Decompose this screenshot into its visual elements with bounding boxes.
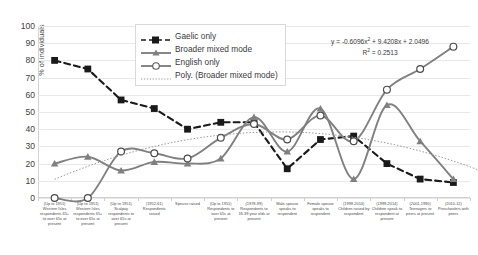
x-axis-labels: (Up to 1951) Western Isles respondents 6… <box>38 201 470 251</box>
equation-lead: y = -0.6096x <box>331 38 367 45</box>
data-point-gaelic-only <box>151 105 158 112</box>
x-axis-category-label: (1978-99) Respondents to 18-39 year olds… <box>238 201 271 221</box>
r-squared: R2 = 0.2513 <box>300 46 460 57</box>
data-point-english-only <box>350 138 357 145</box>
y-axis-tick-label: 40 <box>25 124 35 134</box>
data-point-gaelic-only <box>184 126 191 133</box>
data-point-english-only <box>417 66 424 73</box>
data-point-english-only <box>251 121 258 128</box>
x-axis-category-label: (Up to 1951) Western Isles respondents 6… <box>71 201 104 226</box>
chart-legend: Gaelic only Broader mixed mode English o… <box>135 24 286 86</box>
x-axis-category-label: (Up to 1951) Respondents to over 65s at … <box>204 201 237 221</box>
x-axis-category-label: (2001-1990) Teenagers to peers at presen… <box>404 201 437 216</box>
legend-label-poly-trendline: Poly. (Broader mixed mode) <box>175 70 278 80</box>
gridline <box>38 198 470 199</box>
legend-item-poly-trendline: Poly. (Broader mixed mode) <box>141 68 278 81</box>
x-axis-category-label: (1952-61) Respondents raised <box>138 201 171 216</box>
x-axis-category-label: (Up to 1951) Scalpay respondents to over… <box>105 201 138 226</box>
x-axis-category-label: Female spouse speaks to respondent <box>304 201 337 216</box>
data-point-gaelic-only <box>384 160 391 167</box>
x-axis-category-label: Spouse raised <box>171 201 204 206</box>
legend-label-gaelic-only: Gaelic only <box>175 31 216 41</box>
legend-key-broader-mixed-mode <box>141 44 171 54</box>
x-axis-tickmark <box>470 198 471 201</box>
y-axis-tick-label: 30 <box>25 141 35 151</box>
y-axis-tick-label: 0 <box>30 193 35 203</box>
legend-label-english-only: English only <box>175 57 220 67</box>
x-axis-category-label: (Up to 1951) Western Isles respondents 6… <box>38 201 71 226</box>
legend-key-english-only <box>141 57 171 67</box>
data-point-english-only <box>151 150 158 157</box>
equation-tail: + 9.4208x + 2.0496 <box>370 38 429 45</box>
data-point-gaelic-only <box>217 119 224 126</box>
y-axis-tick-label: 80 <box>25 55 35 65</box>
y-axis-tick-label: 70 <box>25 73 35 83</box>
data-point-english-only <box>384 86 391 93</box>
data-point-gaelic-only <box>84 66 91 73</box>
x-axis-category-label: (2010-12) Preschoolers with peers <box>437 201 470 216</box>
legend-key-poly-trendline <box>141 70 171 80</box>
r-squared-value: = 0.2513 <box>370 49 398 56</box>
data-point-gaelic-only <box>284 165 291 172</box>
data-point-gaelic-only <box>417 176 424 183</box>
x-axis-category-label: (1999-2014) Children speak to respondent… <box>370 201 403 221</box>
x-axis-category-label: (1999-2014) Children raised by responden… <box>337 201 370 216</box>
data-point-english-only <box>184 155 191 162</box>
x-axis-category-label: Male spouse speaks to respondent <box>271 201 304 216</box>
data-point-english-only <box>284 136 291 143</box>
legend-item-broader-mixed-mode: Broader mixed mode <box>141 42 278 55</box>
equation-body: y = -0.6096x2 + 9.4208x + 2.0496 <box>331 38 429 45</box>
legend-item-gaelic-only: Gaelic only <box>141 29 278 42</box>
data-point-english-only <box>118 148 125 155</box>
y-axis-tick-label: 90 <box>25 38 35 48</box>
trendline-equation: y = -0.6096x2 + 9.4208x + 2.0496 R2 = 0.… <box>300 35 460 57</box>
y-axis-tick-label: 100 <box>21 21 35 31</box>
legend-item-english-only: English only <box>141 55 278 68</box>
y-axis-tick-label: 60 <box>25 90 35 100</box>
y-axis-tick-label: 20 <box>25 159 35 169</box>
chart-container: % of individuals 0102030405060708090100 … <box>0 0 478 255</box>
data-point-gaelic-only <box>317 136 324 143</box>
y-axis-tick-label: 50 <box>25 107 35 117</box>
legend-label-broader-mixed-mode: Broader mixed mode <box>175 44 252 54</box>
data-point-english-only <box>317 112 324 119</box>
data-point-gaelic-only <box>118 97 125 104</box>
legend-key-gaelic-only <box>141 31 171 41</box>
y-axis-tick-label: 10 <box>25 176 35 186</box>
data-point-gaelic-only <box>51 57 58 64</box>
